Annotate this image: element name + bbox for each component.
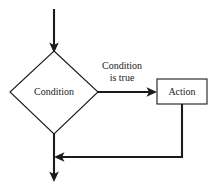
flowchart-canvas: Condition Condition is true Action (0, 0, 222, 189)
process-node-action: Action (157, 79, 207, 104)
true-branch-arrow (98, 87, 157, 97)
process-node-label: Action (168, 86, 195, 97)
true-branch-label-line2: is true (110, 72, 135, 83)
flowchart-diagram: Condition Condition is true Action (0, 0, 222, 189)
entry-arrow (49, 9, 59, 53)
true-branch-label: Condition is true (102, 60, 142, 83)
true-branch-label-line1: Condition (102, 60, 142, 71)
loop-back-line (61, 104, 182, 157)
decision-node-label: Condition (34, 86, 74, 97)
decision-node-condition: Condition (10, 51, 98, 134)
